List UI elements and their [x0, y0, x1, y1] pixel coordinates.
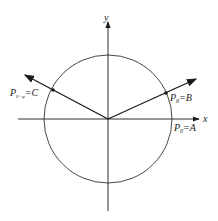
point-c	[51, 88, 55, 92]
point-b	[164, 91, 168, 95]
label-c: Pθ+φ=C	[9, 87, 38, 99]
label-b: Pθ=B	[169, 92, 192, 104]
x-axis-label: x	[202, 113, 208, 124]
unit-circle-diagram: y x P0=A Pθ=B Pθ+φ=C	[0, 0, 218, 221]
y-axis-label: y	[103, 12, 109, 23]
label-a: P0=A	[173, 122, 197, 134]
